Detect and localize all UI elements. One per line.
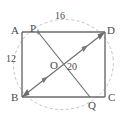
vertex-label-q: Q (88, 100, 96, 111)
measure-label-top: 16 (55, 11, 65, 21)
vertex-label-c: C (108, 92, 115, 103)
vertex-label-p: P (30, 23, 36, 34)
segment-PQ (38, 32, 90, 97)
vertex-label-d: D (107, 25, 115, 36)
arrowhead-mid-lower (42, 77, 49, 84)
measure-label-center: 20 (67, 62, 77, 72)
vertex-label-o: O (50, 60, 58, 71)
vertex-label-a: A (11, 25, 19, 36)
measure-label-left: 12 (6, 54, 16, 64)
vertex-label-b: B (11, 92, 18, 103)
arrowhead-mid-upper (82, 45, 89, 52)
geometry-figure: A P D B Q C O 16 12 20 (0, 0, 125, 122)
arrowhead-toward-D (98, 32, 106, 40)
arrowhead-toward-B (22, 89, 30, 97)
